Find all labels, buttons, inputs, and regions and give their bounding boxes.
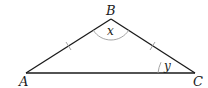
triangle-diagram: A B C x y bbox=[0, 0, 208, 88]
tick-mark-bc bbox=[150, 42, 155, 50]
angle-arc-c bbox=[158, 62, 161, 73]
angle-label-x: x bbox=[107, 24, 114, 38]
vertex-label-c: C bbox=[193, 74, 203, 88]
tick-mark-ab bbox=[66, 42, 71, 50]
angle-label-y: y bbox=[163, 59, 171, 73]
vertex-label-b: B bbox=[105, 3, 116, 18]
vertex-label-a: A bbox=[18, 74, 28, 88]
